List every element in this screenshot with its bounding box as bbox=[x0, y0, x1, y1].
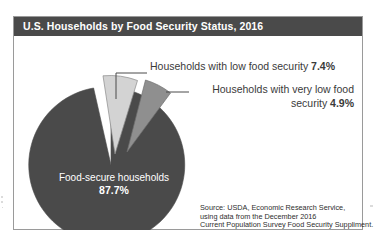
chart-card: U.S. Households by Food Security Status,… bbox=[13, 16, 363, 230]
scan-artifact bbox=[1, 201, 3, 203]
pie-slice-inside-label: Food-secure households 87.7% bbox=[31, 171, 197, 197]
pie-chart-plot-area: Food-secure households 87.7% Households … bbox=[14, 36, 362, 230]
pie-slice-food-secure bbox=[29, 87, 185, 230]
source-note-line-3: Current Population Survey Food Security … bbox=[200, 221, 373, 230]
callout-very-low-security-percent: 4.9% bbox=[330, 97, 354, 109]
callout-very-low-security: Households with very low food security 4… bbox=[192, 83, 354, 110]
scan-artifact bbox=[2, 207, 3, 208]
callout-very-low-security-line2: security bbox=[291, 97, 330, 109]
callout-very-low-security-line1: Households with very low food bbox=[212, 83, 354, 95]
food-secure-label-text: Food-secure households bbox=[59, 172, 169, 183]
chart-title: U.S. Households by Food Security Status,… bbox=[23, 20, 263, 32]
callout-low-security-percent: 7.4% bbox=[311, 60, 335, 72]
scan-artifact bbox=[1, 196, 3, 198]
callout-low-security: Households with low food security 7.4% bbox=[150, 60, 335, 74]
chart-title-bar: U.S. Households by Food Security Status,… bbox=[14, 17, 362, 36]
callout-low-security-text: Households with low food security bbox=[150, 60, 311, 72]
source-note: Source: USDA, Economic Research Service,… bbox=[200, 204, 373, 230]
food-secure-percent: 87.7% bbox=[99, 184, 129, 196]
